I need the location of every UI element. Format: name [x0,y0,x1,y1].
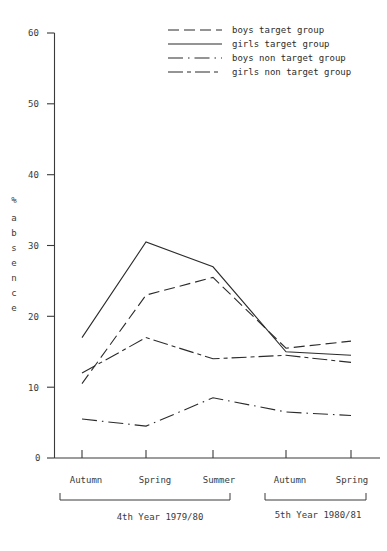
chart-axes: 60 50 40 30 20 10 0 % a b s e n c e [11,28,380,522]
y-axis-title-char-2: b [11,228,16,238]
x-tick-label-3: Summer [203,475,236,485]
y-axis-title-char-0: % [11,195,17,205]
y-tick-label-30: 30 [28,241,39,251]
chart-legend: boys target group girls target group boy… [168,25,351,77]
chart-svg: boys target group girls target group boy… [0,0,387,551]
y-tick-label-50: 50 [28,99,39,109]
y-axis-title: % a b s e n c e [11,195,17,313]
group-label-5th-year: 5th Year 1980/81 [275,510,362,520]
absence-line-chart: boys target group girls target group boy… [0,0,387,551]
y-axis-title-char-4: e [11,258,16,268]
series-line-girls-target-group [82,242,351,355]
y-tick-label-60: 60 [28,28,39,38]
legend-label-boys-non-target-group: boys non target group [232,53,346,63]
x-tick-label-1: Autumn [70,475,103,485]
y-axis-title-char-5: n [11,273,16,283]
x-tick-label-2: Spring [139,475,172,485]
group-bracket-4th-year [60,493,230,500]
y-tick-label-40: 40 [28,170,39,180]
chart-series-group [82,242,351,426]
y-tick-label-10: 10 [28,383,39,393]
y-axis-title-char-6: c [11,288,16,298]
legend-label-boys-target-group: boys target group [232,25,324,35]
x-tick-label-5: Spring [336,475,369,485]
legend-label-girls-target-group: girls target group [232,39,330,49]
series-line-boys-non-target-group [82,398,351,426]
y-axis-title-char-7: e [11,303,16,313]
legend-label-girls-non-target-group: girls non target group [232,67,351,77]
series-line-girls-non-target-group [82,338,351,373]
series-line-boys-target-group [82,277,351,383]
y-tick-label-0: 0 [35,453,40,463]
x-tick-label-4: Autumn [274,475,307,485]
group-bracket-5th-year [265,493,366,500]
y-axis-title-char-3: s [11,243,16,253]
group-label-4th-year: 4th Year 1979/80 [117,512,204,522]
y-tick-label-20: 20 [28,312,39,322]
y-axis-title-char-1: a [11,213,16,223]
